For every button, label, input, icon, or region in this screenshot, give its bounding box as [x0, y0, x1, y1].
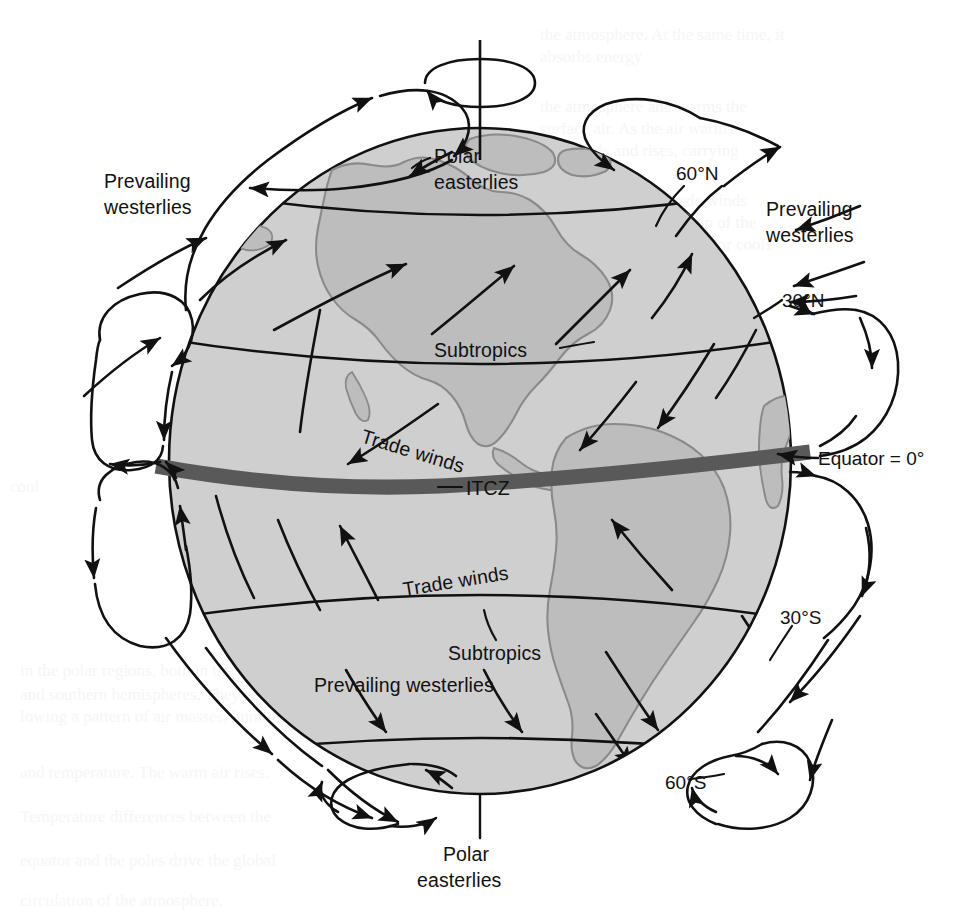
label-polar-easterlies-n-line1: Polar	[434, 145, 480, 167]
svg-text:the atmosphere. At the same ti: the atmosphere. At the same time, it	[540, 25, 785, 44]
label-polar-easterlies-n-line2: easterlies	[434, 171, 519, 193]
label-prevailing-westerlies-ne-line2: westerlies	[765, 224, 854, 246]
label-equator: Equator = 0°	[818, 448, 924, 469]
label-subtropics-north: Subtropics	[434, 339, 527, 361]
label-prevailing-westerlies-s: Prevailing westerlies	[314, 674, 494, 696]
label-itcz: ITCZ	[466, 477, 510, 499]
svg-text:and temperature. The warm air: and temperature. The warm air rises.	[20, 763, 269, 782]
label-prevailing-westerlies-ne-line1: Prevailing	[766, 198, 853, 220]
label-latitude-60N: 60°N	[676, 163, 718, 184]
label-polar-easterlies-s-line1: Polar	[443, 843, 489, 865]
label-latitude-30S: 30°S	[780, 607, 821, 628]
svg-text:lowing a pattern of air masses: lowing a pattern of air masses, humidity	[20, 707, 294, 726]
label-latitude-30N: 30°N	[782, 290, 824, 311]
label-prevailing-westerlies-nw-line1: Prevailing	[104, 170, 191, 192]
global-circulation-diagram: the atmosphere. At the same time, it abs…	[0, 0, 960, 923]
label-subtropics-south: Subtropics	[448, 642, 541, 664]
label-latitude-60S: 60°S	[665, 772, 706, 793]
circulation-figure: the atmosphere. At the same time, it abs…	[0, 0, 960, 923]
svg-text:circulation of the atmosphere.: circulation of the atmosphere.	[20, 891, 223, 910]
label-prevailing-westerlies-nw-line2: westerlies	[103, 196, 192, 218]
svg-text:equator and the poles drive th: equator and the poles drive the global	[20, 851, 276, 870]
svg-text:Temperature differences betwee: Temperature differences between the	[20, 807, 271, 826]
svg-text:surface air. As the air warms: surface air. As the air warms	[540, 119, 734, 138]
svg-text:absorbs energy: absorbs energy	[540, 47, 643, 66]
label-polar-easterlies-s-line2: easterlies	[417, 869, 502, 891]
svg-text:cool: cool	[10, 477, 40, 496]
